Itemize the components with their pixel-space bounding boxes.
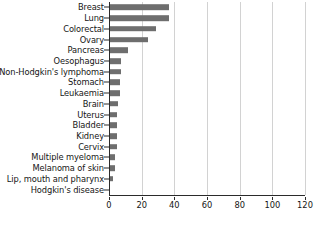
y-tick-mark	[104, 135, 109, 136]
bar	[110, 122, 117, 128]
x-tick-label-60: 60	[202, 200, 213, 210]
y-tick-mark	[104, 125, 109, 126]
bar	[110, 133, 117, 139]
bar	[110, 90, 120, 96]
bar	[110, 47, 128, 53]
y-tick-mark	[104, 7, 109, 8]
x-axis-line	[109, 195, 305, 196]
chart-row: Stomach	[0, 77, 320, 88]
chart-row: Pancreas	[0, 45, 320, 56]
y-tick-mark	[104, 28, 109, 29]
bar	[110, 144, 117, 150]
bar	[110, 15, 169, 21]
chart-row: Hodgkin's disease	[0, 184, 320, 195]
category-label: Melanoma of skin	[32, 164, 104, 173]
category-label: Breast	[78, 3, 104, 12]
chart-row: Non-Hodgkin's lymphoma	[0, 66, 320, 77]
category-label: Pancreas	[68, 46, 104, 55]
category-label: Ovary	[80, 35, 104, 44]
chart-row: Breast	[0, 2, 320, 13]
y-tick-mark	[104, 60, 109, 61]
category-label: Kidney	[76, 131, 104, 140]
y-tick-mark	[104, 114, 109, 115]
category-label: Brain	[83, 99, 104, 108]
chart-row: Oesophagus	[0, 56, 320, 67]
chart-row: Bladder	[0, 120, 320, 131]
chart-row: Melanoma of skin	[0, 163, 320, 174]
bar	[110, 80, 120, 86]
chart-row: Multiple myeloma	[0, 152, 320, 163]
y-tick-mark	[104, 82, 109, 83]
chart-row: Lip, mouth and pharynx	[0, 174, 320, 185]
category-label: Non-Hodgkin's lymphoma	[0, 67, 104, 76]
y-tick-mark	[104, 93, 109, 94]
x-tick-label-20: 20	[136, 200, 147, 210]
category-label: Cervix	[78, 142, 104, 151]
bar	[110, 176, 113, 182]
category-label: Leukaemia	[60, 89, 104, 98]
category-label: Hodgkin's disease	[31, 185, 104, 194]
category-label: Multiple myeloma	[31, 153, 104, 162]
chart-row: Kidney	[0, 131, 320, 142]
y-tick-mark	[104, 50, 109, 51]
bar	[110, 165, 115, 171]
x-tick-label-100: 100	[264, 200, 280, 210]
category-label: Oesophagus	[54, 56, 105, 65]
y-tick-mark	[104, 189, 109, 190]
chart-row: Leukaemia	[0, 88, 320, 99]
chart-row: Colorectal	[0, 23, 320, 34]
bar	[110, 69, 121, 75]
chart-row: Uterus	[0, 109, 320, 120]
chart-row: Ovary	[0, 34, 320, 45]
category-label: Lung	[84, 14, 104, 23]
category-label: Stomach	[68, 78, 104, 87]
bar-chart: BreastLungColorectalOvaryPancreasOesopha…	[0, 0, 320, 225]
y-tick-mark	[104, 103, 109, 104]
y-tick-mark	[104, 168, 109, 169]
chart-row: Cervix	[0, 141, 320, 152]
category-label: Colorectal	[63, 24, 104, 33]
category-label: Uterus	[77, 110, 104, 119]
y-tick-mark	[104, 71, 109, 72]
x-axis-ticks: 020406080100120	[109, 197, 305, 215]
x-tick-label-120: 120	[297, 200, 313, 210]
bar	[110, 5, 169, 11]
bar	[110, 26, 156, 32]
chart-row: Lung	[0, 13, 320, 24]
category-label: Bladder	[73, 121, 104, 130]
y-tick-mark	[104, 157, 109, 158]
chart-row: Brain	[0, 98, 320, 109]
y-tick-mark	[104, 39, 109, 40]
bar	[110, 112, 117, 118]
bar	[110, 58, 121, 64]
bar	[110, 101, 118, 107]
bar	[110, 155, 115, 161]
bar	[110, 37, 148, 43]
category-label: Lip, mouth and pharynx	[7, 174, 104, 183]
y-tick-mark	[104, 146, 109, 147]
bar-rows: BreastLungColorectalOvaryPancreasOesopha…	[0, 2, 320, 195]
x-tick-label-40: 40	[169, 200, 180, 210]
x-tick-label-80: 80	[234, 200, 245, 210]
y-tick-mark	[104, 18, 109, 19]
x-tick-label-0: 0	[106, 200, 111, 210]
y-tick-mark	[104, 178, 109, 179]
